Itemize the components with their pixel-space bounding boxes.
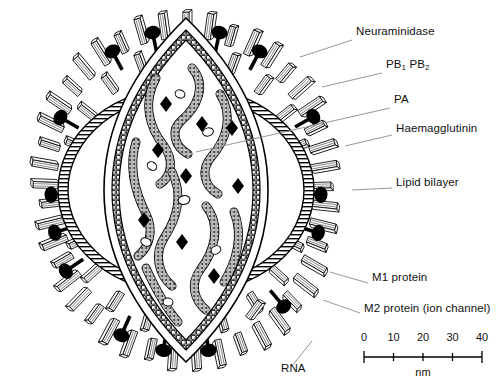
label-neuraminidase: Neuraminidase — [356, 25, 435, 38]
label-pa: PA — [394, 93, 409, 106]
scale-tick-10: 10 — [387, 331, 399, 343]
scale-tick-20: 20 — [417, 331, 429, 343]
label-pb2-sub: 2 — [425, 63, 430, 72]
scale-tick-0: 0 — [361, 331, 367, 343]
label-m1-protein: M1 protein — [372, 271, 427, 284]
label-pb1-pb2: PB1 PB2 — [386, 58, 430, 71]
label-m2-protein: M2 protein (ion channel) — [364, 302, 490, 315]
scale-bar — [364, 351, 482, 363]
leader-lipid-bilayer — [352, 188, 392, 190]
scale-tick-30: 30 — [446, 331, 458, 343]
label-pb2-text: PB — [406, 58, 425, 70]
label-pb1-sub: 1 — [402, 63, 407, 72]
label-pb1-text: PB — [386, 58, 402, 70]
label-rna: RNA — [281, 362, 306, 375]
cutaway-core — [104, 18, 268, 362]
leader-haemagglutinin — [345, 135, 392, 146]
label-haemagglutinin: Haemagglutinin — [396, 122, 477, 135]
leader-m1-protein — [330, 272, 368, 283]
leader-neuraminidase — [300, 40, 352, 57]
leader-pb1-pb2 — [322, 73, 382, 87]
scale-tick-40: 40 — [476, 331, 488, 343]
scale-unit-label: nm — [415, 366, 430, 378]
leader-m2-protein — [323, 300, 360, 313]
label-lipid-bilayer: Lipid bilayer — [396, 176, 459, 189]
influenza-virion-figure: Neuraminidase PB1 PB2 PA Haemagglutinin … — [0, 0, 498, 390]
